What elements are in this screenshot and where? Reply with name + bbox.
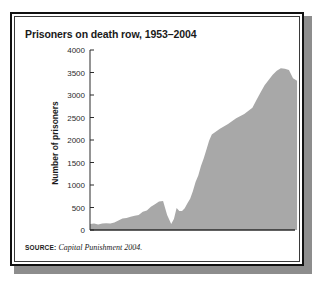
x-tick-label: 1993 xyxy=(243,235,262,236)
y-tick-label: 3500 xyxy=(67,69,85,78)
y-tick-label: 4000 xyxy=(67,46,85,55)
plot-area: Number of prisoners 05001000150020002500… xyxy=(12,46,302,236)
x-tick-label: 1988 xyxy=(202,235,221,236)
y-tick-label: 2000 xyxy=(67,136,85,145)
figure-frame: Prisoners on death row, 1953–2004 Number… xyxy=(10,12,304,266)
chart-title: Prisoners on death row, 1953–2004 xyxy=(25,28,196,40)
figure-root: Prisoners on death row, 1953–2004 Number… xyxy=(0,0,322,284)
y-tick-label: 1000 xyxy=(67,181,85,190)
source-label: SOURCE: xyxy=(25,244,56,251)
x-tick-label: 1953 xyxy=(81,235,100,236)
source-title: Capital Punishment 2004. xyxy=(58,243,142,252)
area-series-prisoners xyxy=(90,68,297,230)
source-note: SOURCE: Capital Punishment 2004. xyxy=(25,243,142,252)
x-tick-label: 2003 xyxy=(284,235,302,236)
y-tick-label: 2500 xyxy=(67,114,85,123)
y-tick-label: 1500 xyxy=(67,159,85,168)
y-axis-title: Number of prisoners xyxy=(50,88,60,198)
y-tick-label: 0 xyxy=(81,226,86,235)
x-tick-label: 1973 xyxy=(162,235,181,236)
y-tick-label: 500 xyxy=(72,204,86,213)
x-tick-label: 1963 xyxy=(121,235,140,236)
y-tick-label: 3000 xyxy=(67,91,85,100)
